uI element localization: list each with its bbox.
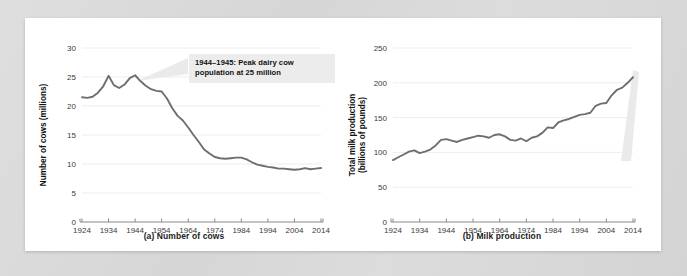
y-axis-tick-label: 150 bbox=[374, 114, 388, 123]
y-axis-tick-label: 15 bbox=[67, 131, 76, 140]
data-series-line bbox=[82, 75, 321, 170]
figure-card: 0510152025301924193419441954196419741984… bbox=[25, 18, 661, 251]
annotation-leader-wedge bbox=[137, 58, 188, 81]
chart-panel-number-of-cows: 0510152025301924193419441954196419741984… bbox=[25, 18, 343, 251]
y-axis-tick-label: 5 bbox=[72, 189, 77, 198]
annotation-callout-peak-dairy-cows: 1944–1945: Peak dairy cow population at … bbox=[189, 54, 335, 83]
panel-b-caption: (b) Milk production bbox=[343, 231, 661, 241]
data-series-line bbox=[393, 77, 633, 160]
y-axis-tick-label: 10 bbox=[67, 160, 76, 169]
line-chart-milk-production: 0501001502002501924193419441954196419741… bbox=[343, 18, 661, 251]
y-axis-tick-label: 50 bbox=[378, 183, 387, 192]
y-axis-title-line1: Total milk production bbox=[348, 94, 357, 177]
y-axis-tick-label: 250 bbox=[374, 44, 388, 53]
y-axis-tick-label: 20 bbox=[67, 102, 76, 111]
y-axis-tick-label: 100 bbox=[374, 148, 388, 157]
line-chart-number-of-cows: 0510152025301924193419441954196419741984… bbox=[25, 18, 343, 251]
y-axis-title-line2: (billions of pounds) bbox=[358, 97, 367, 173]
y-axis-title: Total milk production(billions of pounds… bbox=[348, 94, 367, 177]
chart-panel-milk-production: 0501001502002501924193419441954196419741… bbox=[343, 18, 661, 251]
y-axis-tick-label: 200 bbox=[374, 79, 388, 88]
y-axis-tick-label: 30 bbox=[67, 44, 76, 53]
panel-a-caption: (a) Number of cows bbox=[25, 231, 343, 241]
y-axis-tick-label: 25 bbox=[67, 73, 76, 82]
y-axis-title: Number of cows (millions) bbox=[39, 84, 48, 187]
annotation-leader-wedge bbox=[621, 70, 639, 161]
